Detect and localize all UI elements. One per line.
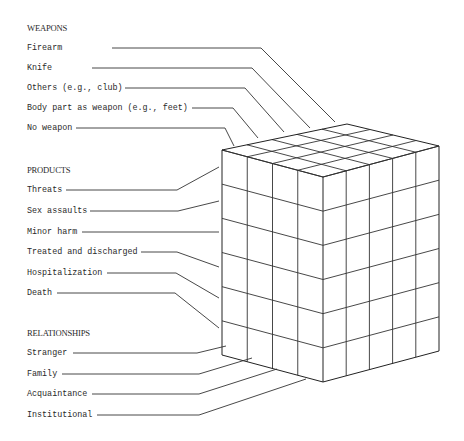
leader-line [92,68,310,128]
product-label-sex-assaults: Sex assaults [27,206,87,216]
weapon-label-no-weapon: No weapon [27,123,72,133]
product-label-death: Death [27,288,52,298]
leader-line [73,346,226,353]
leader-line [57,293,219,328]
leader-line [90,201,219,211]
weapon-label-body-part: Body part as weapon (e.g., feet) [27,103,188,113]
weapons-heading: WEAPONS [27,23,67,33]
cube-drawing [0,0,464,441]
leader-line [66,167,219,190]
leader-line [97,379,306,415]
relationship-label-stranger: Stranger [27,348,67,358]
relationship-label-acquaintance: Acquaintance [27,389,87,399]
leader-line [92,369,277,394]
data-cube [222,124,439,382]
weapon-label-knife: Knife [27,63,52,73]
leader-line [76,128,234,146]
product-label-minor-harm: Minor harm [27,227,77,237]
leader-line [141,252,219,267]
relationship-label-institutional: Institutional [27,410,92,420]
product-label-hospitalization: Hospitalization [27,268,102,278]
weapon-label-others: Others (e.g., club) [27,83,123,93]
products-heading: PRODUCTS [27,165,70,175]
relationship-label-family: Family [27,369,57,379]
weapon-label-firearm: Firearm [27,43,62,53]
product-label-treated: Treated and discharged [27,247,138,257]
relationships-heading: RELATIONSHIPS [27,328,90,338]
leader-line [107,273,219,298]
leader-line [192,108,258,138]
product-label-threats: Threats [27,185,62,195]
leader-line [62,358,252,374]
